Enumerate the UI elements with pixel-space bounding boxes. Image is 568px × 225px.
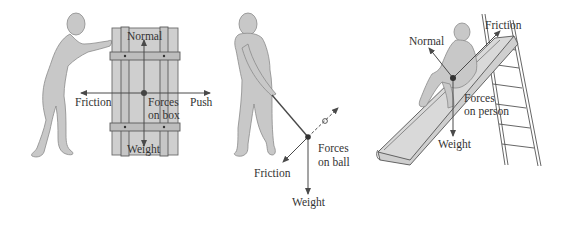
box-normal-label: Normal: [127, 30, 162, 42]
box-forces-caption-line1: Forces: [148, 96, 179, 108]
force-diagram-figure: Normal Weight Friction Push Forces on bo…: [0, 0, 568, 225]
box-weight-label: Weight: [127, 143, 160, 155]
ball-force-arrows: [283, 137, 308, 194]
box-friction-label: Friction: [75, 96, 111, 108]
person-force-point: [450, 75, 456, 81]
golfer-figure: [234, 13, 276, 156]
ball-weight-label: Weight: [292, 196, 325, 208]
box-forces-caption-line2: on box: [148, 109, 180, 121]
box-push-label: Push: [190, 96, 212, 108]
box-force-point: [141, 90, 147, 96]
ball-forces-caption-line2: on ball: [318, 156, 350, 168]
panel-box: [32, 13, 210, 157]
ball: [305, 134, 311, 140]
ball-friction-arrow: [283, 137, 308, 162]
golf-club: [272, 95, 308, 137]
ball-friction-label: Friction: [254, 167, 290, 179]
person-forces-caption-line2: on person: [464, 105, 509, 117]
person-weight-label: Weight: [438, 138, 471, 150]
person-friction-label: Friction: [485, 19, 521, 31]
ball-forces-caption-line1: Forces: [318, 142, 349, 154]
person-forces-caption-line1: Forces: [464, 92, 495, 104]
pushing-person-figure: [32, 13, 112, 157]
person-normal-label: Normal: [409, 35, 444, 47]
ball-future-position: [323, 119, 328, 124]
